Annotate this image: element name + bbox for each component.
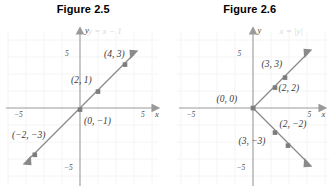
point-label: (4, 3) xyxy=(104,50,125,60)
x-axis-min-tick: −5 xyxy=(187,111,196,119)
marker-2-minus2 xyxy=(272,130,277,135)
y-axis-max-tick: 5 xyxy=(65,50,69,58)
figure-panel-2-6: Figure 2.6 xyxy=(167,0,333,193)
coordinate-plane-2-6 xyxy=(167,0,333,193)
y-axis-name: y xyxy=(258,26,262,35)
x-axis-min-tick: −5 xyxy=(14,111,23,119)
equation-label: y = x − 1 xyxy=(88,27,122,36)
point-label: (−2, −3) xyxy=(12,131,45,141)
y-axis-arrow xyxy=(249,28,256,35)
point-label: (3, 3) xyxy=(262,60,283,70)
line-arrow-lower xyxy=(24,157,31,164)
point-label: (2, −2) xyxy=(280,120,307,130)
y-axis-min-tick: −5 xyxy=(237,164,246,172)
marker-minus2-minus3 xyxy=(33,153,38,158)
marker-2-1 xyxy=(96,89,101,94)
equation-label: x = |y| xyxy=(280,27,304,36)
figure-panel-2-5: Figure 2.5 xyxy=(0,0,167,193)
point-label: (0, −1) xyxy=(84,117,111,127)
y-axis-max-tick: 5 xyxy=(238,50,242,58)
marker-3-3 xyxy=(282,75,287,80)
marker-0-minus1 xyxy=(78,107,83,112)
y-axis-min-tick: −5 xyxy=(64,164,73,172)
y-axis-arrow xyxy=(77,28,84,35)
marker-4-3 xyxy=(123,62,128,67)
y-axis-name: y xyxy=(85,26,89,35)
x-axis-name: x xyxy=(155,110,159,119)
lower-branch-arrow xyxy=(304,159,311,166)
point-label: (2, 2) xyxy=(279,84,300,94)
marker-3-minus3 xyxy=(285,143,290,148)
coordinate-plane-2-5 xyxy=(0,0,167,193)
marker-2-2 xyxy=(272,85,277,90)
figure-pair: Figure 2.5 xyxy=(0,0,333,193)
marker-0-0 xyxy=(250,106,255,111)
x-axis-max-tick: 5 xyxy=(308,111,312,119)
upper-branch-arrow xyxy=(304,49,311,56)
x-axis-name: x xyxy=(322,110,326,119)
point-label: (0, 0) xyxy=(217,95,238,105)
x-axis-max-tick: 5 xyxy=(141,111,145,119)
point-label: (2, 1) xyxy=(71,76,92,86)
point-label: (3, −3) xyxy=(239,137,266,147)
